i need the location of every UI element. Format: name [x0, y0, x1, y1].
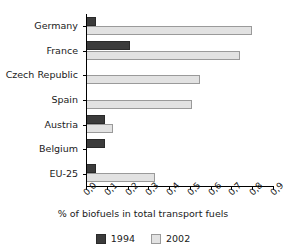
bar-2002-austria	[86, 124, 113, 133]
plot-area	[86, 14, 273, 186]
y-axis-tick-label: Belgium	[39, 144, 78, 154]
y-axis-tick-label: France	[46, 46, 78, 56]
y-axis-tick-label: Czech Republic	[6, 70, 78, 80]
bar-2002-czech-republic	[86, 75, 200, 84]
bar-1994-germany	[86, 17, 96, 26]
bar-2002-eu-25	[86, 173, 155, 182]
y-axis-tick-label: Austria	[44, 120, 78, 130]
bar-1994-eu-25	[86, 164, 96, 173]
legend-label-2002: 2002	[166, 233, 190, 244]
y-axis-tick-label: EU-25	[50, 169, 78, 179]
y-axis-line	[86, 14, 87, 186]
bar-1994-belgium	[86, 139, 105, 148]
bar-2002-spain	[86, 100, 192, 109]
bar-2002-germany	[86, 26, 252, 35]
y-axis-labels: GermanyFranceCzech RepublicSpainAustriaB…	[0, 14, 82, 186]
chart-legend: 1994 2002	[0, 233, 286, 244]
legend-item-1994: 1994	[96, 233, 135, 244]
legend-label-1994: 1994	[111, 233, 135, 244]
x-axis-title: % of biofuels in total transport fuels	[0, 208, 286, 219]
y-axis-tick-label: Germany	[34, 21, 78, 31]
bar-1994-austria	[86, 115, 105, 124]
biofuels-bar-chart: GermanyFranceCzech RepublicSpainAustriaB…	[0, 0, 286, 251]
legend-item-2002: 2002	[151, 233, 190, 244]
bar-2002-france	[86, 51, 240, 60]
legend-swatch-2002	[151, 234, 161, 244]
bar-1994-france	[86, 41, 130, 50]
y-axis-tick-label: Spain	[51, 95, 78, 105]
legend-swatch-1994	[96, 234, 106, 244]
